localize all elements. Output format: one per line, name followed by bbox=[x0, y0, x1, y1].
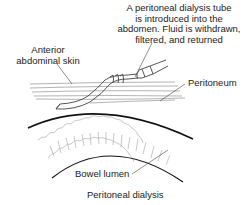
skin-label: Anterior abdominal skin bbox=[2, 45, 94, 66]
figure-caption: Peritoneal dialysis bbox=[87, 190, 164, 201]
skin-label-line2: abdominal skin bbox=[2, 56, 94, 67]
skin-label-line1: Anterior bbox=[2, 45, 94, 56]
tube-annotation-line3: abdomen. Fluid is withdrawn, bbox=[116, 24, 242, 35]
peritoneum-line bbox=[28, 114, 193, 139]
tube-annotation-line1: A peritoneal dialysis tube bbox=[116, 3, 242, 14]
tube-annotation-line4: filtered, and returned bbox=[116, 35, 242, 46]
bowel-lumen-label: Bowel lumen bbox=[75, 169, 129, 180]
tube-annotation: A peritoneal dialysis tube is introduced… bbox=[116, 3, 242, 45]
peritoneum-label: Peritoneum bbox=[188, 78, 237, 89]
